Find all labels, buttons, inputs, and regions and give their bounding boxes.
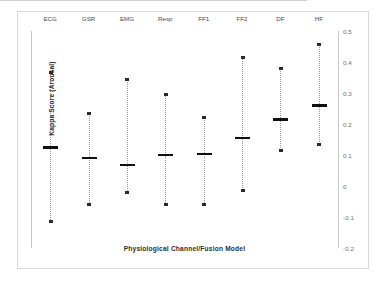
min-marker xyxy=(164,203,168,206)
max-marker xyxy=(164,93,168,96)
y-axis-tick-label: 0.2 xyxy=(343,121,373,128)
x-axis-category-label: ECG xyxy=(30,15,70,23)
zero-reference-line xyxy=(0,0,307,1)
min-marker xyxy=(49,220,53,223)
range-whisker xyxy=(280,68,281,150)
mean-marker xyxy=(273,118,288,121)
max-marker xyxy=(317,43,321,46)
min-marker xyxy=(279,149,283,152)
x-axis-title: Physiological Channel/Fusion Model xyxy=(31,245,338,252)
min-marker xyxy=(317,143,321,146)
mean-marker xyxy=(82,157,97,160)
max-marker xyxy=(241,56,245,59)
chart-frame xyxy=(17,11,369,269)
y-axis-tick-label: -0.2 xyxy=(343,245,373,252)
max-marker xyxy=(87,112,91,115)
min-marker xyxy=(202,203,206,206)
max-marker xyxy=(125,78,129,81)
x-axis-category-label: Resp xyxy=(145,15,185,23)
x-axis-category-label: GSR xyxy=(69,15,109,23)
x-axis-category-label: FF1 xyxy=(184,15,224,23)
y-axis-tick-label: 0 xyxy=(343,183,373,190)
y-axis-tick-label: 0.3 xyxy=(343,90,373,97)
max-marker xyxy=(279,67,283,70)
x-axis-category-label: EMG xyxy=(107,15,147,23)
range-whisker xyxy=(127,79,128,193)
y-axis-tick-label: 0.4 xyxy=(343,59,373,66)
y-axis-title: Kappa Score (Arousal) xyxy=(48,44,55,154)
y-axis-tick-label: -0.1 xyxy=(343,214,373,221)
range-whisker xyxy=(319,45,320,144)
y-axis-tick-label: 0.1 xyxy=(343,152,373,159)
x-axis-category-label: HF xyxy=(299,15,339,23)
range-whisker xyxy=(242,57,243,190)
max-marker xyxy=(202,116,206,119)
mean-marker xyxy=(312,104,327,107)
y-axis-tick-label: 0.5 xyxy=(343,28,373,35)
y-axis-line xyxy=(31,31,32,248)
mean-marker xyxy=(235,137,250,140)
right-axis-line xyxy=(338,31,339,248)
chart-figure: 0.50.40.30.20.10-0.1-0.2 ECGGSREMGRespFF… xyxy=(0,0,387,282)
min-marker xyxy=(87,203,91,206)
min-marker xyxy=(241,189,245,192)
x-axis-category-label: DF xyxy=(260,15,300,23)
x-axis-category-label: FF2 xyxy=(222,15,262,23)
mean-marker xyxy=(120,164,135,167)
range-whisker xyxy=(204,118,205,205)
range-whisker xyxy=(165,95,166,205)
min-marker xyxy=(125,191,129,194)
mean-marker xyxy=(158,154,173,157)
mean-marker xyxy=(197,153,212,156)
